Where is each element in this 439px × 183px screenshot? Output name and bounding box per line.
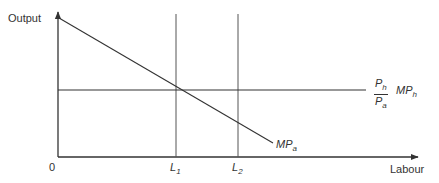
mp-a-line bbox=[59, 18, 273, 143]
y-axis-label: Output bbox=[8, 12, 41, 24]
origin-label: 0 bbox=[49, 161, 55, 173]
x-axis-label: Labour bbox=[390, 163, 424, 175]
price-ratio-fraction: Ph Pa bbox=[374, 77, 388, 112]
mp-h-label: MPh bbox=[396, 84, 417, 99]
mp-a-label: MPa bbox=[276, 138, 297, 153]
tick-label-l2: L2 bbox=[232, 161, 243, 176]
tick-label-l1: L1 bbox=[170, 161, 181, 176]
